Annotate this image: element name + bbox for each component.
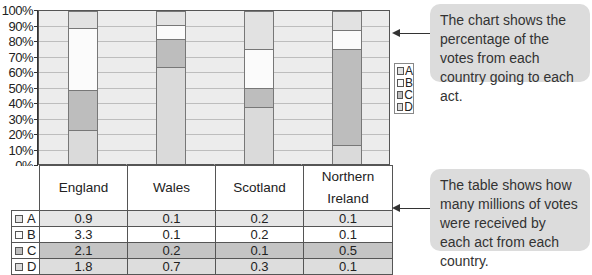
- bar-scotland: [244, 11, 274, 164]
- bar-segment-b: [157, 25, 185, 39]
- bar-wales: [156, 11, 186, 164]
- table-cell: 0.1: [128, 227, 216, 243]
- bar-segment-c: [245, 88, 273, 107]
- table-row: A0.90.10.20.1: [12, 211, 393, 227]
- legend-swatch-icon: [397, 91, 403, 99]
- row-label-text: C: [27, 243, 36, 258]
- bar-segment-d: [69, 130, 97, 164]
- plot-area: [38, 10, 390, 165]
- data-table: England Wales Scotland Northern Ireland …: [11, 165, 393, 275]
- legend-item-d: D: [397, 101, 413, 113]
- row-label: D: [12, 259, 40, 275]
- table-cell: 2.1: [40, 243, 128, 259]
- legend-swatch-icon: [15, 231, 23, 239]
- table-cell: 0.2: [216, 227, 304, 243]
- arrow-head-icon: [392, 29, 400, 37]
- legend-swatch-icon: [397, 79, 404, 87]
- chart-callout: The chart shows the percentage of the vo…: [430, 4, 590, 82]
- table-header-row: England Wales Scotland Northern Ireland: [12, 166, 393, 211]
- row-label: B: [12, 227, 40, 243]
- table-corner: [12, 166, 40, 211]
- bar-segment-a: [245, 11, 273, 49]
- legend-swatch-icon: [397, 67, 404, 75]
- y-tick-label: 50%: [0, 82, 33, 95]
- row-label: A: [12, 211, 40, 227]
- y-tick-label: 100%: [0, 4, 33, 17]
- table-cell: 0.7: [128, 259, 216, 275]
- table-cell: 0.2: [216, 211, 304, 227]
- bar-segment-a: [157, 11, 185, 25]
- bar-segment-d: [157, 67, 185, 164]
- legend-label: D: [404, 101, 413, 113]
- y-tick-label: 40%: [0, 97, 33, 110]
- chart-callout-arrow: [395, 33, 430, 34]
- table-cell: 0.1: [304, 211, 393, 227]
- legend-swatch-icon: [397, 103, 403, 111]
- table-cell: 0.1: [304, 259, 393, 275]
- table-row: D1.80.70.30.1: [12, 259, 393, 275]
- y-tick-label: 20%: [0, 128, 33, 141]
- bar-northern-ireland: [332, 11, 362, 164]
- bar-segment-a: [333, 11, 361, 30]
- y-tick-label: 90%: [0, 20, 33, 33]
- col-header-northern-ireland: Northern Ireland: [304, 166, 393, 211]
- legend-swatch-icon: [15, 215, 23, 223]
- table-cell: 0.5: [304, 243, 393, 259]
- table-callout: The table shows how many millions of vot…: [430, 169, 590, 251]
- bar-segment-d: [245, 107, 273, 164]
- row-label: C: [12, 243, 40, 259]
- bar-segment-a: [69, 11, 97, 28]
- bar-segment-c: [157, 39, 185, 67]
- table-row: B3.30.10.20.1: [12, 227, 393, 243]
- table-cell: 0.9: [40, 211, 128, 227]
- table-cell: 3.3: [40, 227, 128, 243]
- legend: ABCD: [394, 63, 414, 114]
- col-header-scotland: Scotland: [216, 166, 304, 211]
- table-row: C2.10.20.10.5: [12, 243, 393, 259]
- bar-segment-b: [69, 28, 97, 90]
- row-label-text: B: [27, 227, 36, 242]
- arrow-head-icon: [392, 204, 400, 212]
- bar-segment-d: [333, 145, 361, 164]
- bar-segment-c: [333, 49, 361, 145]
- table-callout-arrow: [395, 208, 430, 209]
- row-label-text: A: [27, 211, 36, 226]
- bar-segment-b: [245, 49, 273, 87]
- table-cell: 0.3: [216, 259, 304, 275]
- y-tick-label: 30%: [0, 113, 33, 126]
- table-cell: 1.8: [40, 259, 128, 275]
- y-tick-label: 80%: [0, 35, 33, 48]
- bar-segment-c: [69, 90, 97, 130]
- table-cell: 0.1: [128, 211, 216, 227]
- legend-swatch-icon: [15, 263, 23, 271]
- y-tick-label: 70%: [0, 51, 33, 64]
- bar-england: [68, 11, 98, 164]
- table-cell: 0.2: [128, 243, 216, 259]
- col-header-england: England: [40, 166, 128, 211]
- col-header-wales: Wales: [128, 166, 216, 211]
- table-cell: 0.1: [216, 243, 304, 259]
- y-tick-label: 60%: [0, 66, 33, 79]
- bar-segment-b: [333, 30, 361, 49]
- row-label-text: D: [27, 259, 36, 274]
- legend-swatch-icon: [15, 247, 23, 255]
- table-cell: 0.1: [304, 227, 393, 243]
- y-tick-label: 10%: [0, 144, 33, 157]
